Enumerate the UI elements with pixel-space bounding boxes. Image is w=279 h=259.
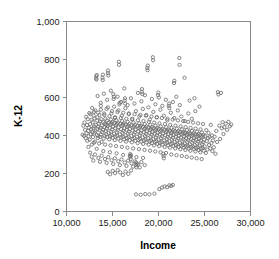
data-point [127,172,130,175]
data-point [188,99,191,102]
y-tick-label: 1,000 [37,17,60,27]
data-point [215,140,218,143]
data-point [107,156,110,159]
data-point [107,74,110,77]
data-point [207,131,210,134]
data-point [154,103,157,106]
data-point [123,97,126,100]
data-point [185,155,188,158]
x-tick-label: 15,000 [98,218,126,228]
data-point [190,156,193,159]
data-point [109,144,112,147]
data-points-group [81,56,233,197]
data-point [116,95,119,98]
data-point [204,151,207,154]
data-point [123,87,126,90]
data-point [124,140,127,143]
data-point [101,78,104,81]
data-point [195,157,198,160]
data-point [187,112,190,115]
data-point [169,111,172,114]
data-point [222,132,225,135]
data-point [152,110,155,113]
data-point [139,193,142,196]
data-point [109,89,112,92]
y-axis-tick-labels: 02004006008001,000 [37,17,60,217]
data-point [102,149,105,152]
data-point [106,98,109,101]
data-point [141,107,144,110]
data-point [87,145,90,148]
x-tick-label: 30,000 [236,218,264,228]
data-point [92,159,95,162]
data-point [154,150,157,153]
data-point [103,157,106,160]
data-point [136,91,139,94]
data-point [130,162,133,165]
data-point [175,95,178,98]
x-tick-label: 10,000 [52,218,80,228]
data-point [118,163,121,166]
data-point [214,152,217,155]
data-point [117,160,120,163]
data-point [131,165,134,168]
data-point [124,106,127,109]
data-point [225,128,228,131]
data-point [115,152,118,155]
data-point [186,120,189,123]
data-point [95,147,98,150]
data-point [105,161,108,164]
data-point [113,105,116,108]
data-point [140,100,143,103]
data-point [100,154,103,157]
data-point [91,135,94,138]
data-point [194,110,197,113]
data-point [211,139,214,142]
chart-canvas: 10,00015,00020,00025,00030,000 020040060… [0,0,279,259]
data-point [150,97,153,100]
data-point [173,79,176,82]
data-point [120,145,123,148]
data-point [159,108,162,111]
data-point [141,142,144,145]
data-point [137,148,140,151]
data-point [93,153,96,156]
data-point [129,169,132,172]
data-point [140,160,143,163]
x-axis-tick-labels: 10,00015,00020,00025,00030,000 [52,218,264,228]
data-point [91,106,94,109]
y-tick-label: 600 [44,93,59,103]
data-point [96,94,99,97]
data-point [215,129,218,132]
data-point [141,156,144,159]
data-point [211,149,214,152]
data-point [196,122,199,125]
data-point [146,68,149,71]
data-point [112,162,115,165]
data-point [176,109,179,112]
data-point [113,171,116,174]
data-point [147,143,150,146]
data-point [125,164,128,167]
data-point [148,149,151,152]
y-tick-label: 800 [44,55,59,65]
y-tick-label: 200 [44,169,59,179]
data-point [200,157,203,160]
data-point [108,173,111,176]
data-point [99,108,102,111]
data-point [147,106,150,109]
x-tick-label: 20,000 [144,218,172,228]
data-point [96,116,99,119]
data-point [123,161,126,164]
data-point [130,141,133,144]
data-point [102,92,105,95]
data-point [198,105,201,108]
data-point [183,76,186,79]
data-point [88,151,91,154]
data-point [144,192,147,195]
data-point [108,151,111,154]
data-point [175,154,178,157]
data-point [126,146,129,149]
data-point [135,156,138,159]
data-point [113,157,116,160]
